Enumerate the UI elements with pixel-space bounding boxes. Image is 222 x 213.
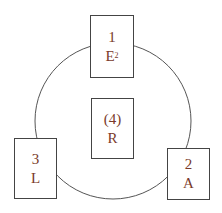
node-letter: E2 — [105, 47, 118, 66]
node-number: 2 — [185, 155, 193, 174]
node-letter: R — [107, 129, 117, 148]
node-letter: A — [183, 174, 194, 193]
node-number: 3 — [32, 150, 40, 169]
node-number: (4) — [104, 110, 122, 129]
node-number: 1 — [108, 28, 116, 47]
node-right: 2 A — [167, 148, 210, 200]
node-letter: L — [31, 169, 40, 188]
node-left: 3 L — [14, 138, 57, 199]
node-center: (4) R — [91, 98, 134, 159]
node-top: 1 E2 — [90, 15, 134, 78]
